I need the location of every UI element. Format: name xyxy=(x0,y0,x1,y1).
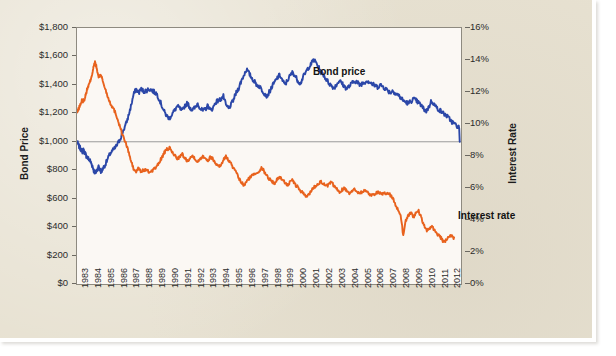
right-axis-tick: 2% xyxy=(470,246,484,256)
x-axis-tick: 2004 xyxy=(351,268,360,288)
left-axis-tick: $600 xyxy=(47,193,68,203)
x-axis-tick: 1990 xyxy=(171,268,180,288)
left-axis-title: Bond Price xyxy=(19,94,30,214)
x-axis-tick: 2008 xyxy=(402,268,411,288)
interest-rate-line xyxy=(77,61,454,242)
right-axis-tick: 8% xyxy=(470,150,484,160)
x-axis-tick: 1984 xyxy=(94,268,103,288)
x-axis-tick: 2000 xyxy=(299,268,308,288)
x-axis-tick: 2001 xyxy=(312,268,321,288)
right-axis-tick-mark xyxy=(465,91,470,92)
x-axis-tick: 1995 xyxy=(235,268,244,288)
right-axis-tick: 12% xyxy=(470,86,489,96)
right-axis-tick: 0% xyxy=(470,278,484,288)
x-axis-tick: 1992 xyxy=(197,268,206,288)
bond-price-annotation: Bond price xyxy=(313,66,365,77)
right-axis-tick: 10% xyxy=(470,118,489,128)
right-axis-tick-mark xyxy=(465,27,470,28)
x-axis-tick: 2003 xyxy=(338,268,347,288)
x-axis-tick-labels: 1983198419851986198719881989199019911992… xyxy=(76,288,462,334)
left-axis-tick: $1,000 xyxy=(39,136,68,146)
x-axis-tick: 1998 xyxy=(274,268,283,288)
right-axis-tick-mark xyxy=(465,59,470,60)
x-axis-tick: 1997 xyxy=(261,268,270,288)
x-axis-tick: 1988 xyxy=(145,268,154,288)
interest-rate-annotation: Interest rate xyxy=(458,210,515,221)
x-axis-tick: 2012 xyxy=(453,268,462,288)
chart-screenshot: $0$200$400$600$800$1,000$1,200$1,400$1,6… xyxy=(0,0,616,356)
right-axis-tick-mark xyxy=(465,251,470,252)
right-axis-tick-mark xyxy=(465,283,470,284)
left-axis-tick: $1,600 xyxy=(39,50,68,60)
right-axis-tick: 14% xyxy=(470,54,489,64)
left-axis-tick: $1,400 xyxy=(39,79,68,89)
x-axis-tick: 2009 xyxy=(415,268,424,288)
right-axis-tick-mark xyxy=(465,187,470,188)
plot-area: Bond price Interest rate xyxy=(76,27,462,285)
x-axis-tick: 2007 xyxy=(389,268,398,288)
x-axis-tick: 2005 xyxy=(364,268,373,288)
x-axis-tick: 1987 xyxy=(132,268,141,288)
left-axis-tick: $800 xyxy=(47,164,68,174)
left-axis-tick: $400 xyxy=(47,221,68,231)
bond-price-line xyxy=(77,59,460,173)
x-axis-tick: 2006 xyxy=(376,268,385,288)
x-axis-tick: 1985 xyxy=(107,268,116,288)
left-axis-tick: $0 xyxy=(57,278,68,288)
right-axis-tick-labels: 0%2%4%6%8%10%12%14%16% xyxy=(466,27,506,285)
x-axis-tick: 1986 xyxy=(120,268,129,288)
series-canvas xyxy=(77,28,461,284)
left-axis-tick: $1,200 xyxy=(39,107,68,117)
x-axis-tick: 1996 xyxy=(248,268,257,288)
right-axis-title: Interest Rate xyxy=(507,94,518,214)
x-axis-tick: 2002 xyxy=(325,268,334,288)
x-axis-tick: 2011 xyxy=(441,269,450,288)
right-axis-tick: 16% xyxy=(470,22,489,32)
left-axis-tick: $1,800 xyxy=(39,22,68,32)
left-axis-tick-labels: $0$200$400$600$800$1,000$1,200$1,400$1,6… xyxy=(26,27,72,285)
right-axis-tick-mark xyxy=(465,155,470,156)
x-axis-tick: 1983 xyxy=(81,268,90,288)
right-axis-tick: 6% xyxy=(470,182,484,192)
left-axis-tick: $200 xyxy=(47,250,68,260)
x-axis-tick: 1989 xyxy=(158,268,167,288)
x-axis-tick: 1994 xyxy=(222,268,231,288)
x-axis-tick: 1991 xyxy=(184,268,193,288)
x-axis-tick: 1999 xyxy=(286,268,295,288)
x-axis-tick: 2010 xyxy=(428,268,437,288)
x-axis-tick: 1993 xyxy=(209,268,218,288)
right-axis-tick-mark xyxy=(465,123,470,124)
